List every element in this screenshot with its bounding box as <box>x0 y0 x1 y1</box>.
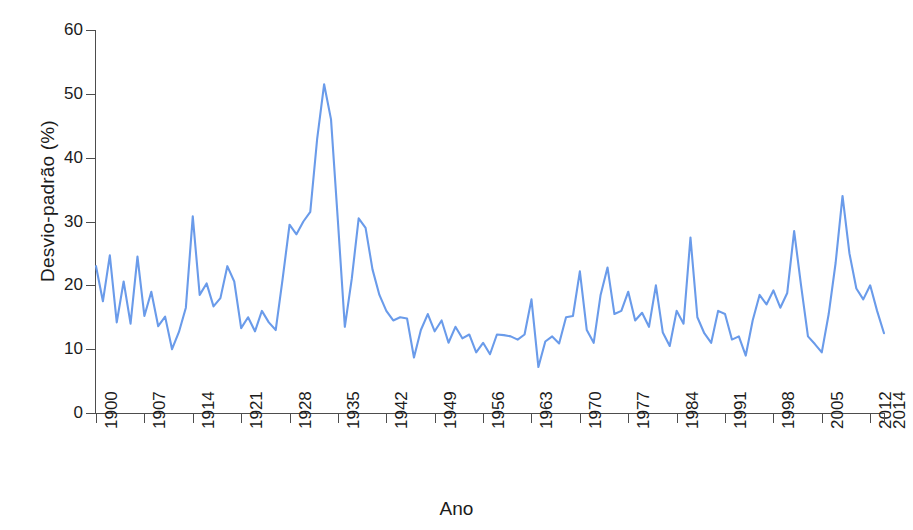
y-tick-label: 40 <box>27 149 83 166</box>
x-tick-label: 2005 <box>829 391 846 429</box>
y-tick-label: 20 <box>27 276 83 293</box>
x-tick-mark <box>870 414 871 423</box>
y-axis-line <box>95 30 96 414</box>
x-tick-label: 1900 <box>103 391 120 429</box>
x-tick-mark <box>193 414 194 423</box>
x-tick-label: 1956 <box>490 391 507 429</box>
x-tick-label: 1991 <box>732 391 749 429</box>
y-tick-label: 60 <box>27 21 83 38</box>
x-tick-mark <box>580 414 581 423</box>
y-tick-label: 50 <box>27 85 83 102</box>
x-tick-mark <box>677 414 678 423</box>
y-axis-ticks: 0102030405060 <box>0 0 83 530</box>
chart-figure: Desvio-padrão (%) Ano 0102030405060 1900… <box>0 0 913 530</box>
x-tick-label: 1907 <box>151 391 168 429</box>
y-tick-mark <box>86 413 95 414</box>
x-tick-mark <box>531 414 532 423</box>
x-tick-mark <box>96 414 97 423</box>
x-tick-label: 2014 <box>891 391 908 429</box>
y-tick-label: 0 <box>27 404 83 421</box>
x-tick-label: 1970 <box>587 391 604 429</box>
y-tick-label: 10 <box>27 340 83 357</box>
x-tick-mark <box>144 414 145 423</box>
y-tick-mark <box>86 349 95 350</box>
y-tick-mark <box>86 94 95 95</box>
series-plot-area <box>0 0 913 530</box>
y-tick-mark <box>86 285 95 286</box>
y-tick-mark <box>86 30 95 31</box>
x-tick-label: 1935 <box>345 391 362 429</box>
data-series-line <box>96 84 884 367</box>
x-tick-label: 1921 <box>248 391 265 429</box>
x-tick-mark <box>483 414 484 423</box>
x-tick-label: 1977 <box>635 391 652 429</box>
x-tick-mark <box>241 414 242 423</box>
x-tick-mark <box>884 414 885 423</box>
x-tick-label: 1984 <box>684 391 701 429</box>
x-tick-label: 1914 <box>200 391 217 429</box>
x-tick-mark <box>628 414 629 423</box>
x-tick-label: 1928 <box>297 391 314 429</box>
x-tick-label: 1949 <box>442 391 459 429</box>
x-axis-title: Ano <box>0 498 913 520</box>
x-tick-mark <box>773 414 774 423</box>
y-tick-mark <box>86 222 95 223</box>
x-tick-label: 1942 <box>393 391 410 429</box>
y-tick-mark <box>86 158 95 159</box>
x-tick-mark <box>290 414 291 423</box>
x-tick-mark <box>822 414 823 423</box>
x-tick-mark <box>725 414 726 423</box>
x-tick-label: 1963 <box>538 391 555 429</box>
x-tick-label: 1998 <box>780 391 797 429</box>
x-tick-mark <box>386 414 387 423</box>
x-tick-mark <box>435 414 436 423</box>
x-tick-mark <box>338 414 339 423</box>
y-tick-label: 30 <box>27 213 83 230</box>
